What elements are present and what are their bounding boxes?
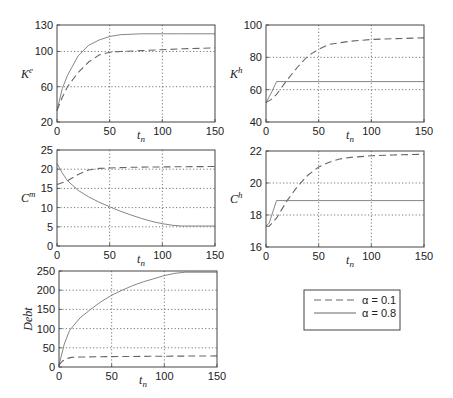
x-tick-label: 50 (104, 125, 116, 137)
series-line-alpha-0-8 (266, 82, 424, 103)
y-tick-label: 20 (250, 177, 262, 189)
x-axis-label: tn (137, 128, 145, 144)
x-tick-label: 0 (263, 125, 269, 137)
series-line-alpha-0-1 (57, 48, 215, 111)
x-tick-label: 100 (155, 370, 173, 382)
figure: 0501001502060100130tnKe05010015040608010… (0, 0, 453, 398)
x-tick-label: 150 (415, 125, 433, 137)
subplot-ch: 05010015016182022tnCh (230, 145, 433, 269)
y-tick-label: 40 (250, 116, 262, 128)
y-axis-label: Debt (21, 307, 35, 332)
series-line-alpha-0-8 (57, 163, 215, 226)
subplot-debt: 050100150050100150200250tnDebt (21, 265, 226, 389)
axes-frame (266, 25, 424, 122)
series-line-alpha-0-1 (59, 356, 217, 365)
series-line-alpha-0-8 (59, 272, 217, 365)
x-tick-label: 0 (54, 125, 60, 137)
y-tick-label: 100 (244, 19, 262, 31)
axes-frame (57, 25, 215, 122)
y-tick-label: 5 (47, 221, 53, 233)
y-tick-label: 22 (250, 145, 262, 157)
y-tick-label: 130 (35, 19, 53, 31)
series-line-alpha-0-8 (266, 201, 424, 227)
x-tick-label: 0 (56, 370, 62, 382)
x-tick-label: 0 (54, 249, 60, 261)
y-tick-label: 60 (41, 81, 53, 93)
x-tick-label: 50 (104, 249, 116, 261)
y-tick-label: 20 (41, 116, 53, 128)
x-tick-label: 150 (415, 250, 433, 262)
legend-label: α = 0.1 (362, 294, 396, 306)
axes-frame (57, 150, 215, 246)
y-tick-label: 50 (43, 342, 55, 354)
x-axis-label: tn (346, 128, 354, 144)
y-tick-label: 0 (47, 240, 53, 252)
axes-frame (266, 151, 424, 247)
x-tick-label: 150 (206, 125, 224, 137)
legend-label: α = 0.8 (362, 307, 396, 319)
y-axis-label: Cm (21, 189, 36, 205)
x-tick-label: 100 (153, 249, 171, 261)
x-tick-label: 100 (153, 125, 171, 137)
y-axis-label: Kh (229, 65, 243, 81)
axes-frame (59, 271, 217, 367)
x-tick-label: 0 (263, 250, 269, 262)
x-axis-label: tn (139, 373, 147, 389)
subplot-cm: 0501001500510152025tnCm (21, 144, 224, 268)
x-axis-label: tn (346, 253, 354, 269)
legend: α = 0.1α = 0.8 (304, 290, 400, 330)
y-tick-label: 250 (37, 265, 55, 277)
y-tick-label: 25 (41, 144, 53, 156)
y-tick-label: 10 (41, 202, 53, 214)
x-axis-label: tn (137, 252, 145, 268)
subplot-kh: 050100150406080100tnKh (229, 19, 433, 144)
x-tick-label: 50 (106, 370, 118, 382)
y-tick-label: 16 (250, 241, 262, 253)
x-tick-label: 50 (313, 125, 325, 137)
y-tick-label: 80 (250, 51, 262, 63)
y-tick-label: 15 (41, 182, 53, 194)
x-tick-label: 50 (313, 250, 325, 262)
y-axis-label: Ch (230, 190, 243, 206)
y-tick-label: 18 (250, 209, 262, 221)
x-tick-label: 150 (206, 249, 224, 261)
x-tick-label: 150 (208, 370, 226, 382)
y-tick-label: 100 (37, 323, 55, 335)
y-tick-label: 60 (250, 84, 262, 96)
y-tick-label: 0 (49, 361, 55, 373)
x-tick-label: 100 (362, 125, 380, 137)
y-tick-label: 150 (37, 303, 55, 315)
series-line-alpha-0-1 (266, 38, 424, 103)
y-tick-label: 200 (37, 284, 55, 296)
x-tick-label: 100 (362, 250, 380, 262)
y-tick-label: 100 (35, 45, 53, 57)
y-axis-label: Ke (20, 65, 33, 81)
subplot-ke: 0501001502060100130tnKe (20, 19, 224, 144)
y-tick-label: 20 (41, 163, 53, 175)
series-line-alpha-0-8 (57, 34, 215, 111)
